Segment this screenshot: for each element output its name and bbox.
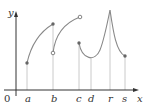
filled-point-a — [25, 61, 28, 64]
curve-piece-1 — [27, 24, 53, 63]
y-axis-arrow-icon — [14, 11, 18, 17]
x-axis-arrow-icon — [133, 88, 139, 92]
tick-label-b: b — [51, 93, 57, 104]
tick-label-s: s — [122, 93, 127, 104]
curve-piece-3 — [79, 10, 125, 58]
open-point-c — [78, 15, 82, 19]
filled-point-b — [51, 22, 54, 25]
tick-label-a: a — [25, 93, 31, 104]
tick-label-c: c — [76, 93, 82, 104]
curve-piece-2 — [53, 17, 80, 53]
origin-label: 0 — [4, 93, 10, 104]
axes — [4, 11, 139, 96]
vertical-guides — [27, 10, 125, 90]
tick-label-r: r — [108, 93, 114, 104]
y-axis-label: y — [7, 7, 14, 18]
tick-label-d: d — [88, 93, 94, 104]
filled-point-s — [123, 54, 126, 57]
open-point-b — [51, 51, 55, 55]
filled-point-c — [77, 41, 80, 44]
x-axis-label: x — [137, 93, 143, 104]
function-graph: y x 0 a b c d r s — [0, 0, 145, 107]
